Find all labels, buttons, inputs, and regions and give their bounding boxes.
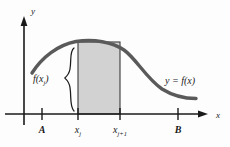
height-label-base: f(x xyxy=(33,73,44,85)
tick-label-b: B xyxy=(174,124,182,135)
tick-label-xj1: xj+1 xyxy=(112,124,127,137)
figure-canvas: y x y = f(x) f(xj) A xj xj+1 B xyxy=(0,0,230,147)
tick-label-xj: xj xyxy=(74,124,81,137)
y-axis-arrowhead xyxy=(21,16,28,26)
height-label-group: f(xj) xyxy=(33,73,49,86)
riemann-rectangle xyxy=(78,42,120,114)
x-axis-label: x xyxy=(215,110,220,120)
tick-label-xj1-subscript: j+1 xyxy=(117,130,127,137)
x-axis-arrowhead xyxy=(198,111,208,118)
tick-label-a: A xyxy=(38,124,46,135)
curve-equation-label: y = f(x) xyxy=(164,75,196,87)
y-axis-label: y xyxy=(30,6,35,16)
tick-label-xj-subscript: j xyxy=(78,130,81,137)
riemann-sum-figure: y x y = f(x) f(xj) A xj xj+1 B xyxy=(0,0,230,147)
height-label-close: ) xyxy=(44,73,49,85)
height-brace xyxy=(65,48,74,111)
height-label: f(xj) xyxy=(33,73,49,86)
